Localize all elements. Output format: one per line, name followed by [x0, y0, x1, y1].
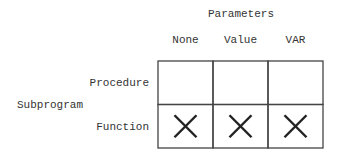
grid-cell-procedure-none [158, 61, 213, 105]
cross-mark-icon [175, 115, 197, 137]
cross-mark-icon [285, 115, 307, 137]
grid-cell-procedure-var [268, 61, 323, 105]
cross-mark-icon [230, 115, 252, 137]
grid-cell-procedure-value [213, 61, 268, 105]
parameter-grid [0, 0, 345, 161]
